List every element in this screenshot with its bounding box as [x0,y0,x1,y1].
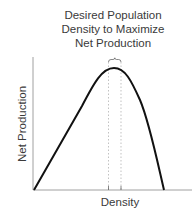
x-axis-label: Density [90,196,150,208]
chart-plot [0,0,196,221]
y-axis-label: Net Production [16,74,28,174]
range-bracket [109,58,122,62]
net-production-curve [34,68,164,190]
